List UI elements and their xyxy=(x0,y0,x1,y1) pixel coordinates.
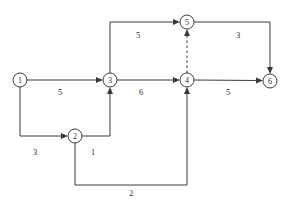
edge-label-1-to-2: 3 xyxy=(33,147,37,157)
edge-2-to-4-line xyxy=(75,90,187,185)
node-6-label: 6 xyxy=(268,77,272,86)
node-2-label: 2 xyxy=(73,132,77,141)
edge-3-to-4 xyxy=(117,77,180,83)
edge-label-5-to-6: 3 xyxy=(236,30,240,40)
edge-2-to-3 xyxy=(82,87,113,136)
node-4[interactable]: 4 xyxy=(180,73,194,87)
node-2[interactable]: 2 xyxy=(68,129,82,143)
edge-label-2-to-4: 2 xyxy=(129,188,133,198)
edge-2-to-3-line xyxy=(82,90,110,136)
node-1-label: 1 xyxy=(18,76,22,85)
edge-4-to-5-dummy xyxy=(184,29,190,73)
node-3[interactable]: 3 xyxy=(103,73,117,87)
node-3-label: 3 xyxy=(108,76,112,85)
edge-3-to-5-arrowhead xyxy=(173,19,180,25)
edge-1-to-3-arrowhead xyxy=(96,77,103,83)
edge-label-2-to-3: 1 xyxy=(91,147,95,157)
edge-3-to-5 xyxy=(110,19,180,73)
edge-label-3-to-4: 6 xyxy=(139,87,143,97)
edge-4-to-6 xyxy=(194,78,263,84)
edge-label-4-to-6: 5 xyxy=(226,87,230,97)
edge-4-to-6-arrowhead xyxy=(256,78,263,84)
node-5[interactable]: 5 xyxy=(180,15,194,29)
node-5-label: 5 xyxy=(185,18,189,27)
edge-3-to-4-arrowhead xyxy=(173,77,180,83)
edge-5-to-6-line xyxy=(194,22,270,71)
node-1[interactable]: 1 xyxy=(13,73,27,87)
edge-label-3-to-5: 5 xyxy=(136,30,140,40)
network-diagram: 5 3 1 2 6 5 3 5 1 2 3 4 5 6 xyxy=(0,0,287,205)
edge-2-to-4-arrowhead xyxy=(184,87,190,94)
edge-label-1-to-3: 5 xyxy=(58,87,62,97)
edge-3-to-5-line xyxy=(110,22,177,73)
edge-2-to-3-arrowhead xyxy=(107,87,113,94)
edge-5-to-6-arrowhead xyxy=(267,67,273,74)
node-6[interactable]: 6 xyxy=(263,74,277,88)
edge-4-to-5-arrowhead xyxy=(184,29,190,36)
edge-5-to-6 xyxy=(194,22,273,74)
diagram-canvas: 5 3 1 2 6 5 3 5 1 2 3 4 5 6 xyxy=(0,0,287,205)
edge-4-to-6-line xyxy=(194,80,260,81)
edge-1-to-2-arrowhead xyxy=(61,133,68,139)
node-4-label: 4 xyxy=(185,76,189,85)
edge-1-to-3 xyxy=(27,77,103,83)
